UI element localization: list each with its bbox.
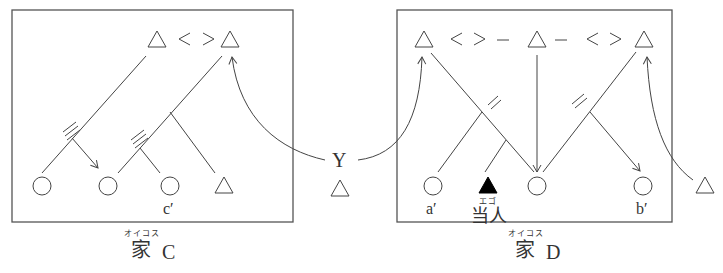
b-prime-label: b′ — [636, 201, 648, 217]
d-bottom-female-center — [528, 177, 546, 195]
d-top-male-left — [415, 31, 433, 47]
c-bottom-male — [215, 177, 233, 193]
c-bottom-female-1 — [33, 177, 51, 195]
household-d-kanji: 家 — [515, 240, 535, 260]
household-c-letter: C — [162, 242, 175, 262]
ego-label: 当人 — [471, 207, 507, 225]
y-male-triangle — [331, 180, 349, 196]
d-bottom-female-b-prime — [634, 177, 652, 195]
d-top-male-right — [635, 31, 653, 47]
household-d-box — [397, 10, 672, 222]
kinship-diagram — [0, 0, 723, 273]
household-c-kanji: 家 — [131, 240, 151, 260]
household-c-box — [12, 10, 293, 222]
outside-right-male — [696, 177, 714, 193]
d-ego-triangle — [479, 177, 497, 193]
d-top-male-center — [528, 31, 546, 47]
a-prime-label: a′ — [426, 201, 437, 217]
c-top-male-left — [148, 31, 166, 47]
y-label: Y — [332, 150, 346, 170]
d-bottom-female-a-prime — [424, 177, 442, 195]
c-top-male-right — [221, 31, 239, 47]
household-d-furigana: オイコス — [508, 230, 544, 238]
c-bottom-female-2 — [99, 177, 117, 195]
c-prime-label: c′ — [163, 201, 174, 217]
c-bottom-female-c-prime — [161, 177, 179, 195]
household-c-furigana: オイコス — [124, 230, 160, 238]
household-d-letter: D — [546, 242, 560, 262]
